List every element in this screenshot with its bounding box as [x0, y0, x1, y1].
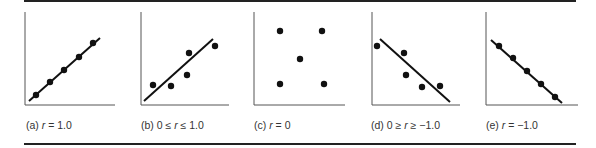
caption-suffix: = 0 — [273, 119, 291, 131]
data-point — [184, 72, 190, 78]
panel-e — [486, 12, 578, 105]
data-point — [403, 72, 409, 78]
panel-b — [141, 12, 229, 105]
data-point — [552, 94, 558, 100]
caption-suffix: ≤ 1.0 — [178, 119, 204, 131]
data-point — [212, 43, 218, 49]
data-point — [47, 79, 53, 85]
panel-a — [25, 12, 115, 105]
caption-d: (d) 0 ≥ r ≥ −1.0 — [371, 119, 440, 131]
caption-suffix: ≥ −1.0 — [408, 119, 440, 131]
data-point — [61, 67, 67, 73]
data-point — [319, 28, 325, 34]
data-point — [297, 56, 303, 62]
regression-line — [380, 39, 450, 102]
data-point — [538, 81, 544, 87]
caption-prefix: (c) — [254, 119, 269, 131]
data-point — [33, 92, 39, 98]
caption-prefix: (e) — [486, 119, 502, 131]
bottom-rule — [24, 143, 576, 145]
axes — [25, 12, 115, 105]
data-point — [277, 81, 283, 87]
caption-suffix: = 1.0 — [45, 119, 72, 131]
caption-prefix: (a) — [26, 119, 42, 131]
caption-c: (c) r = 0 — [254, 119, 290, 131]
data-point — [168, 83, 174, 89]
data-point — [524, 68, 530, 74]
axes — [486, 12, 578, 105]
data-point — [496, 43, 502, 49]
panel-d — [372, 12, 460, 105]
data-point — [76, 54, 82, 60]
data-point — [374, 43, 380, 49]
caption-prefix: (d) 0 ≥ — [371, 119, 404, 131]
axes — [372, 12, 460, 105]
data-point — [186, 50, 192, 56]
caption-a: (a) r = 1.0 — [26, 119, 72, 131]
panel-c — [254, 12, 345, 105]
data-point — [150, 82, 156, 88]
data-point — [90, 40, 96, 46]
data-point — [277, 28, 283, 34]
data-point — [401, 50, 407, 56]
caption-suffix: = −1.0 — [505, 119, 538, 131]
caption-prefix: (b) 0 ≤ — [141, 119, 174, 131]
data-point — [437, 83, 443, 89]
caption-e: (e) r = −1.0 — [486, 119, 538, 131]
data-point — [510, 55, 516, 61]
caption-b: (b) 0 ≤ r ≤ 1.0 — [141, 119, 204, 131]
data-point — [321, 81, 327, 87]
data-point — [419, 84, 425, 90]
regression-line — [144, 39, 213, 101]
